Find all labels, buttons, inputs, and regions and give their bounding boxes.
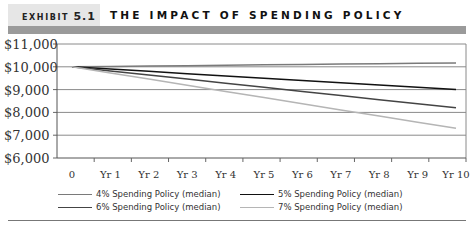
- legend-item-7pct: 7% Spending Policy (median): [240, 201, 402, 213]
- legend-label: 6% Spending Policy (median): [96, 202, 220, 212]
- x-axis: 0Yr 1Yr 2Yr 3Yr 4Yr 5Yr 6Yr 7Yr 8Yr 9Yr …: [57, 158, 470, 180]
- x-tick-label: Yr 6: [291, 169, 313, 180]
- bottom-divider: [8, 220, 466, 221]
- legend-swatch: [58, 207, 92, 208]
- y-tick-label: $6,000: [4, 151, 50, 166]
- legend-swatch: [58, 194, 92, 195]
- legend-item-5pct: 5% Spending Policy (median): [240, 188, 402, 200]
- x-tick-label: Yr 9: [406, 169, 428, 180]
- legend-label: 5% Spending Policy (median): [278, 189, 402, 199]
- x-tick-label: Yr 4: [214, 169, 236, 180]
- legend-item-4pct: 4% Spending Policy (median): [58, 188, 220, 200]
- y-tick-label: $7,000: [4, 128, 50, 143]
- y-axis: $11,000$10,000$9,000$8,000$7,000$6,000: [4, 37, 58, 166]
- series-line: [72, 67, 456, 129]
- x-tick-label: 0: [69, 169, 75, 180]
- gridlines: [57, 44, 466, 158]
- y-tick-label: $11,000: [4, 37, 58, 52]
- x-tick-label: Yr 1: [99, 169, 121, 180]
- legend-swatch: [240, 207, 274, 208]
- x-tick-label: Yr 3: [176, 169, 198, 180]
- legend-label: 4% Spending Policy (median): [96, 189, 220, 199]
- chart-legend: 4% Spending Policy (median) 5% Spending …: [0, 188, 476, 218]
- x-tick-label: Yr 2: [137, 169, 159, 180]
- y-tick-label: $9,000: [4, 83, 50, 98]
- y-tick-label: $8,000: [4, 105, 50, 120]
- x-tick-label: Yr 5: [253, 169, 275, 180]
- x-tick-label: Yr 8: [368, 169, 390, 180]
- series-line: [72, 67, 456, 108]
- series-line: [72, 63, 456, 67]
- y-tick-label: $10,000: [4, 60, 58, 75]
- x-tick-label: Yr 10: [441, 169, 469, 180]
- series-line: [72, 67, 456, 90]
- legend-item-6pct: 6% Spending Policy (median): [58, 201, 220, 213]
- data-series: [72, 63, 456, 128]
- legend-label: 7% Spending Policy (median): [278, 202, 402, 212]
- x-tick-label: Yr 7: [329, 169, 351, 180]
- line-chart: $11,000$10,000$9,000$8,000$7,000$6,000 0…: [0, 0, 476, 190]
- legend-swatch: [240, 194, 274, 195]
